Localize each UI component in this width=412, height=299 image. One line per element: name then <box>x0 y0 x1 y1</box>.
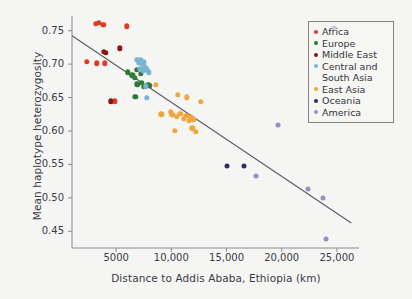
legend-item-label: Central and South Asia <box>322 61 390 84</box>
data-point <box>323 236 328 241</box>
data-point <box>224 164 229 169</box>
legend-item-label: East Asia <box>322 84 365 96</box>
legend-item-east-asia[interactable]: East Asia <box>313 84 390 96</box>
data-point <box>320 195 325 200</box>
data-point <box>254 174 259 179</box>
data-point <box>276 122 281 127</box>
legend-swatch-icon <box>314 64 318 68</box>
data-point <box>306 186 311 191</box>
legend-swatch-icon <box>314 30 318 34</box>
x-tick-label: 25,000 <box>319 252 354 263</box>
legend-item-europe[interactable]: Europe <box>313 38 390 50</box>
x-tick-label: 15,000 <box>209 252 244 263</box>
legend-swatch-icon <box>314 87 318 91</box>
legend-item-label: Europe <box>322 38 355 50</box>
legend-item-label: Oceania <box>322 95 361 107</box>
legend-swatch-icon <box>314 41 318 45</box>
legend-item-label: Middle East <box>322 49 377 61</box>
legend-item-label: Africa <box>322 26 349 38</box>
legend-swatch-icon <box>314 110 318 114</box>
x-tick-label: 5000 <box>103 252 128 263</box>
y-axis-title: Mean haplotype heterozygosity <box>31 21 43 251</box>
x-axis-title: Distance to Addis Ababa, Ethiopia (km) <box>72 272 360 284</box>
legend-item-oceania[interactable]: Oceania <box>313 95 390 107</box>
data-point <box>242 164 247 169</box>
legend-item-central-and-south-asia[interactable]: Central and South Asia <box>313 61 390 84</box>
scatter-plot-figure: 0.450.500.550.600.650.700.75 500010,0001… <box>0 0 412 299</box>
legend-swatch-icon <box>314 99 318 103</box>
x-tick-label: 20,000 <box>264 252 299 263</box>
tick-marks <box>68 31 337 252</box>
legend-item-america[interactable]: America <box>313 107 390 119</box>
legend-swatch-icon <box>314 53 318 57</box>
legend-item-middle-east[interactable]: Middle East <box>313 49 390 61</box>
legend[interactable]: AfricaEuropeMiddle EastCentral and South… <box>308 21 394 123</box>
x-tick-label: 10,000 <box>154 252 189 263</box>
legend-item-africa[interactable]: Africa <box>313 26 390 38</box>
legend-item-label: America <box>322 107 361 119</box>
